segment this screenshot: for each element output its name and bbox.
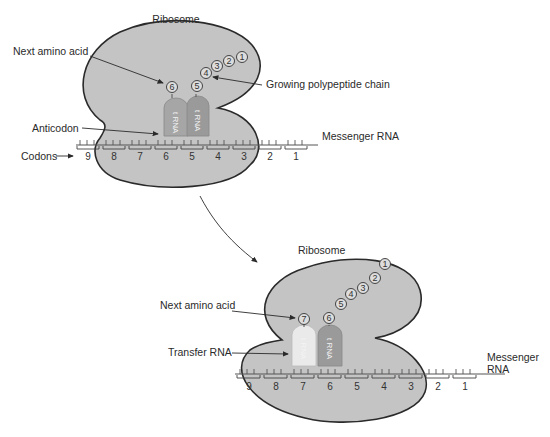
svg-text:t RNA: t RNA <box>171 112 180 134</box>
svg-text:t RNA: t RNA <box>325 338 334 360</box>
svg-text:3: 3 <box>360 283 365 293</box>
anticodon-label: Anticodon <box>32 122 79 134</box>
svg-text:2: 2 <box>226 56 231 66</box>
mrna-label-top: Messenger RNA <box>322 130 399 142</box>
trna-right-bottom: t RNA <box>318 325 342 366</box>
codon-4: 4 <box>381 381 387 392</box>
svg-text:t RNA: t RNA <box>193 110 202 132</box>
codon-3: 3 <box>241 151 247 162</box>
svg-text:6: 6 <box>326 313 331 323</box>
codon-9: 9 <box>85 151 91 162</box>
codon-2: 2 <box>435 381 441 392</box>
trna-left-bottom: t RNA <box>292 325 316 366</box>
codon-4: 4 <box>215 151 221 162</box>
translation-diagram: 9 8 7 6 5 4 3 2 1 t RNA t RNA 1 2 <box>0 0 550 437</box>
codon-5: 5 <box>189 151 195 162</box>
svg-text:1: 1 <box>239 52 244 62</box>
svg-text:2: 2 <box>372 273 377 283</box>
trna-left-top: t RNA <box>164 98 188 136</box>
top-panel: 9 8 7 6 5 4 3 2 1 t RNA t RNA 1 2 <box>13 13 399 187</box>
mrna-label-bottom-line1: Messenger <box>487 351 539 363</box>
svg-text:t RNA: t RNA <box>299 338 308 360</box>
codon-6: 6 <box>327 381 333 392</box>
svg-text:6: 6 <box>169 82 174 92</box>
svg-text:4: 4 <box>203 68 208 78</box>
codon-1: 1 <box>293 151 299 162</box>
svg-text:1: 1 <box>382 259 387 269</box>
bottom-panel: 9 8 7 6 5 4 3 2 1 t RNA t RNA 1 2 3 <box>160 244 539 422</box>
growing-chain-label: Growing polypeptide chain <box>266 78 390 90</box>
trna-right-top: t RNA <box>187 96 209 136</box>
svg-text:5: 5 <box>194 81 199 91</box>
codon-5: 5 <box>354 381 360 392</box>
codon-7: 7 <box>300 381 306 392</box>
ribosome-label-bottom: Ribosome <box>298 244 345 256</box>
next-amino-acid-label-bottom: Next amino acid <box>160 299 235 311</box>
svg-text:5: 5 <box>338 299 343 309</box>
svg-text:4: 4 <box>348 289 353 299</box>
codon-8: 8 <box>273 381 279 392</box>
next-amino-acid-label-top: Next amino acid <box>13 45 88 57</box>
codon-8: 8 <box>111 151 117 162</box>
codon-3: 3 <box>408 381 414 392</box>
transition-arrow <box>200 196 257 262</box>
codon-7: 7 <box>137 151 143 162</box>
codon-1: 1 <box>462 381 468 392</box>
codon-6: 6 <box>163 151 169 162</box>
svg-text:3: 3 <box>214 61 219 71</box>
codon-9: 9 <box>246 381 252 392</box>
mrna-label-bottom-line2: RNA <box>487 363 509 375</box>
ribosome-label-top: Ribosome <box>152 13 199 25</box>
svg-text:7: 7 <box>301 314 306 324</box>
codons-label: Codons <box>21 150 57 162</box>
transfer-rna-label: Transfer RNA <box>168 346 232 358</box>
codon-2: 2 <box>267 151 273 162</box>
